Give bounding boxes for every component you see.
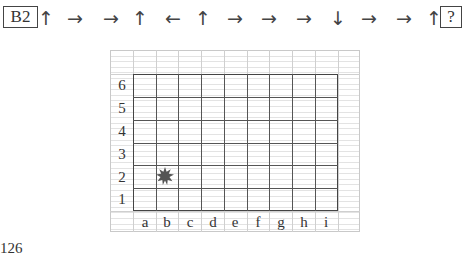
col-label-c: c	[179, 214, 201, 231]
arrow-right-icon: →	[394, 8, 414, 28]
col-label-d: d	[202, 214, 224, 231]
row-label-4: 4	[114, 123, 130, 140]
row-label-1: 1	[114, 191, 130, 208]
page-number: 126	[0, 240, 23, 257]
grid-line	[110, 211, 360, 212]
row-label-5: 5	[114, 100, 130, 117]
board-line	[133, 97, 338, 98]
answer-box[interactable]: ?	[440, 6, 462, 28]
row-label-2: 2	[114, 169, 130, 186]
start-cell-label: B2	[3, 6, 38, 28]
grid-line	[338, 50, 339, 232]
row-label-6: 6	[114, 77, 130, 94]
arrow-right-icon: →	[65, 8, 85, 28]
arrow-left-icon: ←	[163, 8, 183, 28]
board-line	[133, 188, 338, 189]
arrow-right-icon: →	[294, 8, 314, 28]
arrow-down-icon: ↓	[328, 8, 348, 28]
arrow-right-icon: →	[259, 8, 279, 28]
board-line	[133, 165, 338, 166]
col-label-i: i	[315, 214, 337, 231]
col-label-f: f	[247, 214, 269, 231]
star-icon	[156, 167, 174, 185]
board-line	[133, 120, 338, 121]
col-label-b: b	[156, 214, 178, 231]
arrow-right-icon: →	[359, 8, 379, 28]
arrow-right-icon: →	[101, 8, 121, 28]
board-line	[133, 143, 338, 144]
arrow-up-icon: ↑	[36, 8, 56, 28]
arrow-sequence: B2 ↑ → → ↑ ← ↑ → → → ↓ → → ↑ ?	[3, 4, 463, 30]
row-label-3: 3	[114, 146, 130, 163]
col-label-g: g	[270, 214, 292, 231]
col-label-a: a	[134, 214, 156, 231]
arrow-right-icon: →	[225, 8, 245, 28]
col-label-h: h	[293, 214, 315, 231]
arrow-up-icon: ↑	[193, 8, 213, 28]
col-label-e: e	[224, 214, 246, 231]
arrow-up-icon: ↑	[130, 8, 150, 28]
